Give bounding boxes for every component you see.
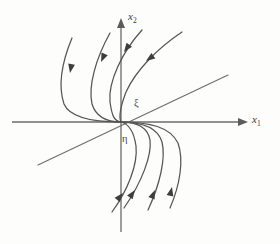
trajectory-upper-left-2 <box>91 33 121 122</box>
x2-axis-label: x2 <box>128 11 137 25</box>
trajectory-upper-left-1 <box>61 38 121 122</box>
trajectories-layer <box>0 0 280 244</box>
trajectory-lower-right-3-arrowhead <box>127 188 138 199</box>
x1-axis-label-sub: 1 <box>257 119 261 128</box>
eta-label: η <box>122 134 128 145</box>
x1-axis-label: x1 <box>252 114 261 128</box>
xi-label: ξ <box>134 98 139 109</box>
trajectory-lower-right-2-arrowhead <box>148 189 158 200</box>
trajectory-upper-left-1-arrowhead <box>67 64 75 74</box>
trajectory-lower-right-1-arrowhead <box>167 186 176 196</box>
x2-axis-label-sub: 2 <box>133 16 137 25</box>
phase-portrait-figure: x2 x1 ξ η <box>0 0 280 244</box>
